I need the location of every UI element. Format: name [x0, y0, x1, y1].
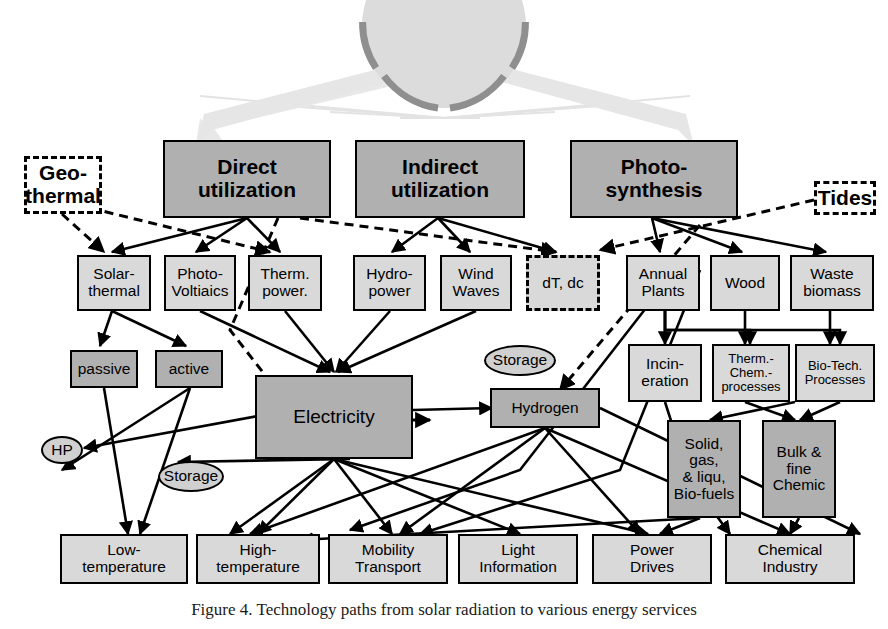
- node-label-line: Bio-fuels: [674, 486, 734, 503]
- node-label-line: Annual: [639, 266, 687, 283]
- node-hydrogen[interactable]: Hydrogen: [490, 388, 600, 428]
- node-label-line: Geo-: [39, 162, 87, 185]
- node-label-line: passive: [78, 361, 131, 378]
- node-storage-hydrogen[interactable]: Storage: [484, 345, 556, 376]
- node-label-line: Bulk &: [777, 444, 822, 461]
- node-label-line: thermal: [88, 283, 140, 300]
- node-label-line: Tides: [818, 187, 872, 210]
- node-label-line: Wood: [725, 275, 765, 292]
- node-label-line: Mobility: [362, 542, 415, 559]
- node-hydro-power[interactable]: Hydro-power: [353, 255, 426, 311]
- node-label-line: power: [368, 283, 410, 300]
- node-chemical-industry[interactable]: ChemicalIndustry: [725, 534, 855, 584]
- node-low-temperature[interactable]: Low-temperature: [60, 534, 188, 584]
- sun-arrow-left: [196, 66, 396, 146]
- node-label-line: Photo-: [621, 156, 687, 179]
- node-direct-utilization[interactable]: Directutilization: [163, 140, 331, 218]
- node-label-line: Therm.: [260, 266, 309, 283]
- node-label-line: synthesis: [606, 179, 703, 202]
- node-label-line: Chem.-: [730, 366, 773, 380]
- node-label-line: thermal: [25, 185, 101, 208]
- node-label-line: Solar-: [93, 266, 134, 283]
- node-dt-dc[interactable]: dT, dc: [526, 255, 600, 311]
- node-label-line: Waves: [453, 283, 500, 300]
- node-mobility-transport[interactable]: MobilityTransport: [328, 534, 448, 584]
- node-label-line: Storage: [493, 352, 547, 369]
- node-label-line: Bio-Tech.: [808, 359, 862, 373]
- node-label-line: Low-: [107, 542, 141, 559]
- node-biotech-processes[interactable]: Bio-Tech.Processes: [795, 344, 875, 402]
- node-label-line: temperature: [82, 559, 166, 576]
- node-indirect-utilization[interactable]: Indirectutilization: [355, 140, 525, 218]
- node-label-line: Transport: [355, 559, 421, 576]
- node-label-line: Indirect: [402, 156, 478, 179]
- node-label-line: Direct: [217, 156, 277, 179]
- node-annual-plants[interactable]: AnnualPlants: [626, 255, 700, 311]
- node-light-information[interactable]: LightInformation: [458, 534, 578, 584]
- node-label-line: dT, dc: [542, 275, 583, 292]
- node-label-line: Chemic: [773, 477, 826, 494]
- node-label-line: utilization: [391, 179, 489, 202]
- node-photosynthesis[interactable]: Photo-synthesis: [570, 140, 738, 218]
- node-label-line: & liqu,: [682, 469, 725, 486]
- node-label-line: Storage: [164, 468, 218, 485]
- node-label-line: Photo-: [177, 266, 223, 283]
- node-label-line: Plants: [641, 283, 684, 300]
- node-label-line: Information: [479, 559, 557, 576]
- node-incineration[interactable]: Incin-eration: [628, 344, 702, 402]
- node-wind-waves[interactable]: WindWaves: [440, 255, 512, 311]
- node-photovoltaics[interactable]: Photo-Voltiaics: [164, 255, 236, 311]
- node-label-line: Industry: [762, 559, 817, 576]
- node-solar-thermal[interactable]: Solar-thermal: [77, 255, 151, 311]
- node-biofuels[interactable]: Solid,gas,& liqu,Bio-fuels: [667, 420, 741, 518]
- node-label-line: Electricity: [293, 407, 374, 428]
- node-label-line: Solid,: [685, 436, 724, 453]
- node-label-line: Incin-: [646, 356, 684, 373]
- node-power-drives[interactable]: PowerDrives: [592, 534, 712, 584]
- node-label-line: active: [169, 361, 210, 378]
- node-thermal-power[interactable]: Therm.power.: [248, 255, 322, 311]
- node-label-line: Light: [501, 542, 535, 559]
- node-label-line: processes: [721, 380, 780, 394]
- node-storage-electricity[interactable]: Storage: [158, 461, 224, 492]
- node-label-line: Waste: [810, 266, 853, 283]
- node-label-line: Drives: [630, 559, 674, 576]
- node-label-line: fine: [787, 461, 812, 478]
- node-label-line: eration: [641, 373, 688, 390]
- node-label-line: utilization: [198, 179, 296, 202]
- node-thermo-chemical-processes[interactable]: Therm.-Chem.-processes: [712, 344, 790, 402]
- node-label-line: Voltiaics: [172, 283, 229, 300]
- node-waste-biomass[interactable]: Wastebiomass: [790, 255, 874, 311]
- node-heat-pump[interactable]: HP: [41, 436, 83, 464]
- figure-canvas: Geo-thermal Directutilization Indirectut…: [0, 0, 888, 629]
- node-label-line: Power: [630, 542, 674, 559]
- node-active[interactable]: active: [155, 350, 223, 388]
- node-label-line: Hydro-: [366, 266, 413, 283]
- node-label-line: HP: [51, 442, 73, 459]
- node-high-temperature[interactable]: High-temperature: [196, 534, 320, 584]
- node-label-line: Hydrogen: [511, 400, 578, 417]
- node-label-line: biomass: [803, 283, 861, 300]
- node-label-line: Chemical: [758, 542, 823, 559]
- node-label-line: Processes: [805, 373, 866, 387]
- node-label-line: Wind: [458, 266, 493, 283]
- node-label-line: gas,: [689, 452, 718, 469]
- node-label-line: Therm.-: [728, 352, 774, 366]
- node-tides[interactable]: Tides: [814, 181, 876, 215]
- node-bulk-fine-chemicals[interactable]: Bulk &fineChemic: [762, 420, 836, 518]
- node-wood[interactable]: Wood: [710, 255, 780, 311]
- node-passive[interactable]: passive: [70, 350, 138, 388]
- node-label-line: High-: [239, 542, 276, 559]
- node-label-line: power.: [262, 283, 308, 300]
- sun-arrow-right: [494, 66, 694, 146]
- figure-caption: Figure 4. Technology paths from solar ra…: [0, 600, 888, 620]
- node-label-line: temperature: [216, 559, 300, 576]
- node-electricity[interactable]: Electricity: [255, 375, 413, 459]
- node-geothermal[interactable]: Geo-thermal: [24, 156, 102, 214]
